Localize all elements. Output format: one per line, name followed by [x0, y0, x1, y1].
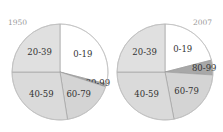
pie-title-2007: 2007 — [193, 18, 212, 27]
pie-label: 20-39 — [132, 47, 157, 57]
pie-label: 20-39 — [27, 47, 52, 57]
pie-label: 40-59 — [134, 89, 159, 99]
pie-label: 40-59 — [29, 89, 54, 99]
pie-2007: 0-1980-9960-7940-5920-39 — [117, 24, 216, 120]
pie-label: 0-19 — [73, 49, 92, 59]
pie-label: 60-79 — [66, 89, 91, 99]
pie-label: 0-19 — [173, 44, 192, 54]
pie-1950: 0-1980-9960-7940-5920-39 — [12, 24, 110, 120]
pie-label: 60-79 — [174, 86, 199, 96]
pie-charts: 0-1980-9960-7940-5920-39 1950 0-1980-996… — [0, 0, 223, 132]
pie-title-1950: 1950 — [8, 18, 27, 27]
